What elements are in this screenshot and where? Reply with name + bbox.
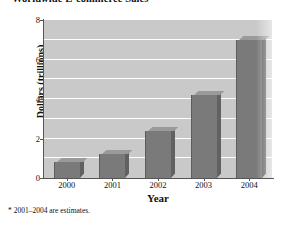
y-tick-mark: [40, 139, 44, 140]
y-tick-mark: [40, 60, 44, 61]
bar: [236, 40, 262, 178]
bar-front-face: [99, 154, 125, 178]
bar-side-face: [125, 150, 129, 178]
gridline: [44, 19, 272, 20]
x-tick-label: 2004: [226, 181, 272, 190]
bar: [54, 162, 80, 178]
y-tick-label: 8: [26, 16, 40, 25]
bar: [145, 131, 171, 178]
bar-side-face: [262, 35, 266, 178]
bar-side-face: [171, 126, 175, 178]
plot-area: [44, 20, 272, 178]
x-axis-title: Year: [44, 192, 272, 204]
chart-figure: Worldwide E-commerce Sales Dollars (tril…: [0, 0, 288, 227]
chart-title: Worldwide E-commerce Sales: [12, 0, 149, 4]
x-tick-label: 2000: [44, 181, 90, 190]
y-tick-mark: [40, 99, 44, 100]
bar-front-face: [54, 162, 80, 178]
x-tick-label: 2002: [135, 181, 181, 190]
y-tick-label: 2: [26, 135, 40, 144]
bar: [99, 154, 125, 178]
y-tick-label: 6: [26, 56, 40, 65]
chart-footnote: * 2001–2004 are estimates.: [8, 206, 90, 215]
y-tick-label: 0: [26, 174, 40, 183]
x-tick-label: 2001: [89, 181, 135, 190]
bar-front-face: [145, 131, 171, 178]
y-tick-label: 4: [26, 95, 40, 104]
bar-front-face: [191, 95, 217, 178]
bar: [191, 95, 217, 178]
y-tick-mark: [40, 20, 44, 21]
bar-front-face: [236, 40, 262, 178]
bar-side-face: [217, 91, 221, 178]
y-tick-mark: [40, 178, 44, 179]
x-tick-label: 2003: [181, 181, 227, 190]
